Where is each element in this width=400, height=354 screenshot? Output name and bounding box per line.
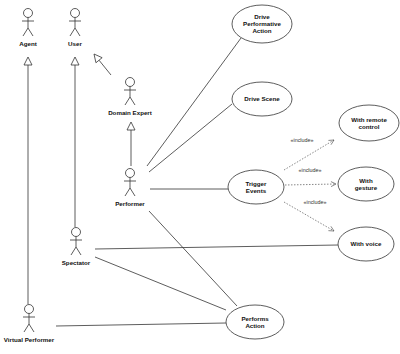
open-arrow-icon <box>328 226 334 231</box>
diagram-svg: «include»«include»«include» DrivePerform… <box>0 0 400 354</box>
use-case-label: gesture <box>355 184 378 191</box>
use-case-with_gesture: Withgesture <box>338 167 394 201</box>
actor-agent: Agent <box>19 9 37 48</box>
include-stereotype-label: «include» <box>290 137 313 143</box>
actor-spectator: Spectator <box>62 228 91 267</box>
actor-virtual_performer: Virtual Performer <box>4 305 55 344</box>
use-case-label: Performs <box>241 315 269 322</box>
actors-layer: AgentUserDomain ExpertPerformerSpectator… <box>4 9 152 344</box>
stick-figure-actor-icon <box>70 228 82 256</box>
include-trigger_events-with_voice: «include» <box>284 199 334 231</box>
include-trigger_events-with_remote_control: «include» <box>284 137 334 170</box>
use-case-label: control <box>359 123 380 130</box>
actor-performer: Performer <box>115 169 145 208</box>
stick-figure-actor-icon <box>22 9 34 37</box>
use-case-label: With remote <box>351 116 387 123</box>
open-arrow-icon <box>328 140 334 145</box>
include-stereotype-label: «include» <box>298 167 321 173</box>
actor-user: User <box>68 9 82 48</box>
include-trigger_events-with_gesture: «include» <box>285 167 336 187</box>
include-stereotype-label: «include» <box>303 199 326 205</box>
actor-label: User <box>68 40 82 47</box>
use-case-with_remote_control: With remotecontrol <box>339 105 399 141</box>
association-spectator-with_voice <box>95 245 338 249</box>
use-case-with_voice: With voice <box>338 227 394 261</box>
use-case-label: Trigger <box>246 180 268 187</box>
actor-label: Spectator <box>62 259 91 266</box>
association-spectator-performs_action <box>95 257 226 310</box>
hollow-triangle-arrow-icon <box>127 122 135 130</box>
use-case-diagram: «include»«include»«include» DrivePerform… <box>0 0 400 354</box>
hollow-triangle-arrow-icon <box>94 54 102 63</box>
use-case-label: Action <box>245 322 264 329</box>
use-case-label: Performative <box>243 20 281 27</box>
generalization-virtual_performer-agent <box>24 57 32 304</box>
use-case-drive_scene: Drive Scene <box>232 82 292 116</box>
use-case-performs_action: PerformsAction <box>226 305 284 339</box>
hollow-triangle-arrow-icon <box>71 57 79 65</box>
actor-domain_expert: Domain Expert <box>108 78 152 117</box>
actor-label: Virtual Performer <box>4 336 55 343</box>
use-case-label: Events <box>246 187 267 194</box>
actor-label: Performer <box>115 200 145 207</box>
use-case-label: With <box>359 177 373 184</box>
use-case-trigger_events: TriggerEvents <box>228 170 284 204</box>
actor-label: Agent <box>19 40 37 47</box>
association-virtual_performer-performs_action <box>56 323 226 326</box>
stick-figure-actor-icon <box>23 305 35 333</box>
association-performer-performs_action <box>149 211 237 306</box>
stick-figure-actor-icon <box>124 169 136 197</box>
use-case-label: Action <box>252 27 271 34</box>
use-case-label: Drive Scene <box>244 95 280 102</box>
association-performer-drive_performative_action <box>147 38 241 166</box>
generalization-domain_expert-user <box>94 54 111 75</box>
actor-label: Domain Expert <box>108 109 152 116</box>
use-case-drive_performative_action: DrivePerformativeAction <box>232 5 292 43</box>
stick-figure-actor-icon <box>124 78 136 106</box>
association-performer-drive_scene <box>149 104 232 172</box>
hollow-triangle-arrow-icon <box>24 57 32 65</box>
generalization-performer-domain_expert <box>127 122 135 166</box>
edges-layer: «include»«include»«include» <box>24 38 338 326</box>
generalization-spectator-user <box>71 57 79 227</box>
use-case-label: With voice <box>351 240 382 247</box>
stick-figure-actor-icon <box>69 9 81 37</box>
use-case-label: Drive <box>254 13 270 20</box>
